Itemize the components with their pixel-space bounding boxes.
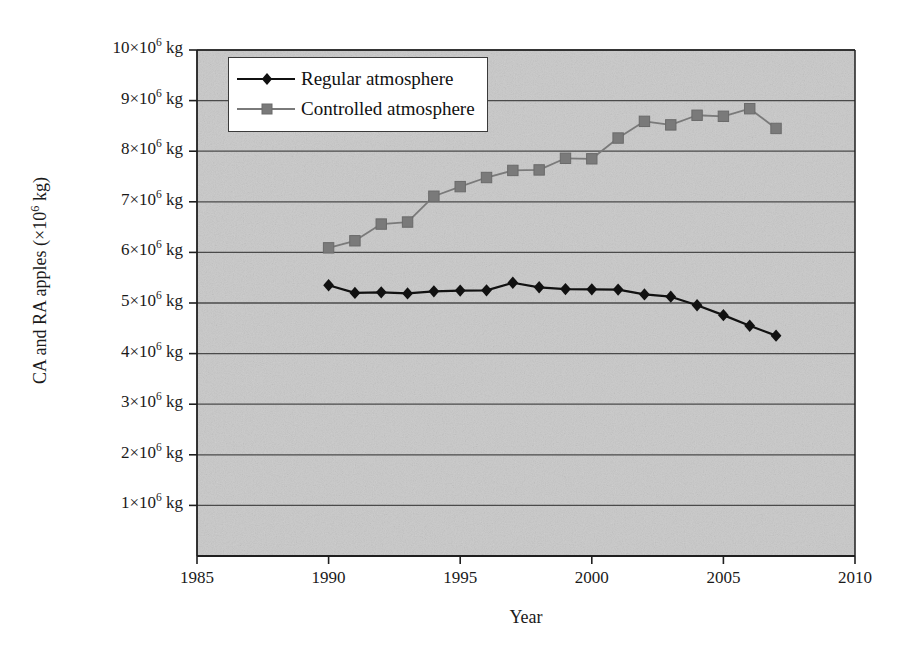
data-point-marker [587,154,597,164]
x-axis-tick-label: 2000 [552,568,632,588]
data-point-marker [455,181,465,191]
x-axis-ticks [197,556,855,564]
x-axis-tick-label: 1995 [420,568,500,588]
data-point-marker [718,111,728,121]
legend-marker-square-icon [237,99,295,119]
legend-label-controlled-atmosphere: Controlled atmosphere [301,98,475,120]
data-point-marker [508,165,518,175]
data-point-marker [429,191,439,201]
data-point-marker [376,219,386,229]
data-point-marker [666,120,676,130]
x-axis-tick-label: 2005 [683,568,763,588]
x-axis-tick-label: 1985 [157,568,237,588]
legend-marker-diamond-icon [237,69,295,89]
x-axis-title: Year [197,607,855,628]
data-point-marker [323,243,333,253]
y-axis-ticks [189,50,197,505]
data-point-marker [639,116,649,126]
data-point-marker [560,153,570,163]
data-point-marker [771,123,781,133]
square-icon [259,102,275,116]
legend-item-regular-atmosphere: Regular atmosphere [237,64,475,94]
data-point-marker [692,110,702,120]
legend-label-regular-atmosphere: Regular atmosphere [301,68,453,90]
y-axis-title-wrapper: CA and RA apples (×106 kg) [0,0,60,560]
data-point-marker [402,217,412,227]
data-point-marker [350,236,360,246]
diamond-icon [259,72,275,86]
chart-legend: Regular atmosphere Controlled atmosphere [228,57,488,132]
legend-item-controlled-atmosphere: Controlled atmosphere [237,94,475,124]
data-point-marker [745,103,755,113]
x-axis-tick-label: 2010 [815,568,895,588]
data-point-marker [481,172,491,182]
y-axis-title: CA and RA apples (×106 kg) [30,91,51,471]
data-point-marker [534,165,544,175]
data-point-marker [613,133,623,143]
chart-figure: 1×106 kg2×106 kg3×106 kg4×106 kg5×106 kg… [0,0,900,647]
x-axis-tick-label: 1990 [289,568,369,588]
